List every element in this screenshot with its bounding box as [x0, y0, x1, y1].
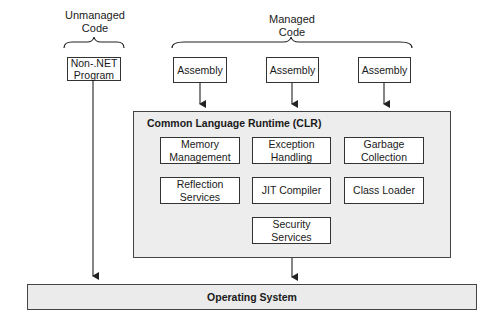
component-line: Handling [271, 151, 312, 164]
assembly-label: Assembly [177, 64, 223, 77]
component-line: Class Loader [353, 184, 415, 197]
component-line: Management [169, 151, 230, 164]
assembly-label: Assembly [362, 64, 408, 77]
managed-label-line1: Managed [252, 13, 332, 26]
component-line: JIT Compiler [262, 184, 321, 197]
jit-compiler-box: JIT Compiler [252, 177, 331, 204]
security-services-box: Security Services [252, 217, 331, 244]
exception-handling-box: Exception Handling [252, 137, 331, 164]
unmanaged-code-label: Unmanaged Code [55, 9, 135, 35]
unmanaged-label-line2: Code [55, 22, 135, 35]
unmanaged-label-line1: Unmanaged [55, 9, 135, 22]
component-line: Services [180, 191, 220, 204]
managed-code-label: Managed Code [252, 13, 332, 39]
component-line: Memory [181, 138, 219, 151]
assembly-box-1: Assembly [173, 57, 227, 83]
reflection-services-box: Reflection Services [160, 177, 240, 204]
assembly-label: Assembly [270, 64, 316, 77]
assembly-box-3: Assembly [358, 57, 411, 83]
memory-management-box: Memory Management [160, 137, 240, 164]
component-line: Security [273, 218, 311, 231]
operating-system-label: Operating System [207, 291, 297, 303]
component-line: Exception [268, 138, 314, 151]
assembly-box-2: Assembly [266, 57, 319, 83]
non-net-line2: Program [74, 69, 114, 82]
class-loader-box: Class Loader [344, 177, 424, 204]
garbage-collection-box: Garbage Collection [344, 137, 424, 164]
managed-label-line2: Code [252, 26, 332, 39]
component-line: Collection [361, 151, 407, 164]
component-line: Services [271, 231, 311, 244]
operating-system-box: Operating System [27, 284, 477, 310]
non-net-line1: Non-.NET [71, 57, 118, 70]
component-line: Reflection [177, 178, 224, 191]
component-line: Garbage [364, 138, 405, 151]
non-net-program-box: Non-.NET Program [67, 57, 121, 81]
clr-title: Common Language Runtime (CLR) [147, 117, 321, 129]
